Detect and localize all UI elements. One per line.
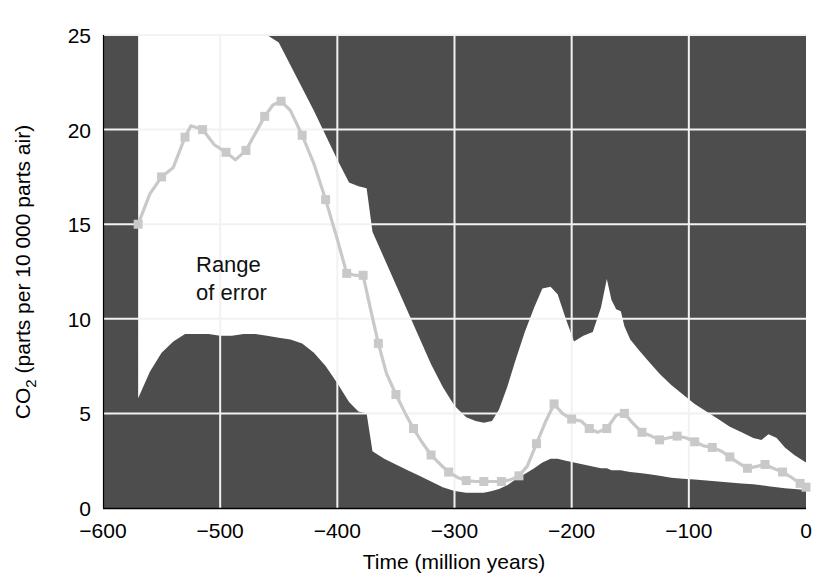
y-axis-title-group: CO2 (parts per 10 000 parts air) [11,125,39,419]
y-tick-label: 5 [79,402,91,425]
data-point-marker [342,269,351,278]
data-point-marker [321,195,330,204]
data-point-marker [778,468,787,477]
data-point-marker [241,146,250,155]
range-of-error-line2: of error [196,280,267,305]
data-point-marker [374,339,383,348]
data-point-marker [802,483,811,492]
y-axis-title: CO2 (parts per 10 000 parts air) [11,125,39,419]
data-point-marker [690,437,699,446]
x-axis-title: Time (million years) [363,550,545,573]
data-point-marker [637,428,646,437]
data-point-marker [444,468,453,477]
y-tick-label: 15 [68,213,91,236]
data-point-marker [198,125,207,134]
data-point-marker [359,271,368,280]
chart-canvas: 0510152025 −600−500−400−300−200−1000 Ran… [0,0,835,586]
x-tick-label: 0 [800,519,812,542]
data-point-marker [620,409,629,418]
data-point-marker [514,471,523,480]
x-tick-label: −300 [431,519,478,542]
data-point-marker [743,464,752,473]
data-point-marker [673,432,682,441]
y-tick-label: 20 [68,119,91,142]
y-tick-label: 25 [68,24,91,47]
y-axis-title-prefix: CO [11,388,34,420]
data-point-marker [409,424,418,433]
data-point-marker [760,460,769,469]
data-point-marker [725,452,734,461]
x-tick-labels: −600−500−400−300−200−1000 [79,519,812,542]
data-point-marker [532,439,541,448]
data-point-marker [708,443,717,452]
data-point-marker [222,148,231,157]
data-point-marker [427,451,436,460]
range-of-error-line1: Range [196,252,261,277]
x-tick-label: −200 [548,519,595,542]
data-point-marker [391,390,400,399]
data-point-marker [567,415,576,424]
data-point-marker [655,435,664,444]
data-point-marker [497,477,506,486]
y-tick-labels: 0510152025 [68,24,91,520]
y-tick-label: 0 [79,497,91,520]
co2-time-chart-figure: 0510152025 −600−500−400−300−200−1000 Ran… [0,0,835,586]
x-tick-label: −500 [197,519,244,542]
y-axis-title-suffix: (parts per 10 000 parts air) [11,125,34,379]
data-point-marker [298,131,307,140]
data-point-marker [277,97,286,106]
x-tick-label: −100 [665,519,712,542]
data-point-marker [602,424,611,433]
x-tick-label: −600 [79,519,126,542]
y-axis-title-subscript: 2 [22,379,39,387]
data-point-marker [479,477,488,486]
data-point-marker [585,424,594,433]
data-point-marker [134,220,143,229]
data-point-marker [181,133,190,142]
y-tick-label: 10 [68,308,91,331]
data-point-marker [260,112,269,121]
data-point-marker [550,399,559,408]
data-point-marker [462,476,471,485]
x-tick-label: −400 [314,519,361,542]
data-point-marker [157,172,166,181]
